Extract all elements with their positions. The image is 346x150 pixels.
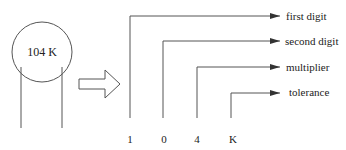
meaning-first-digit: first digit bbox=[286, 10, 327, 22]
capacitor-label: 104 K bbox=[27, 45, 57, 59]
digit-2: 0 bbox=[161, 133, 167, 145]
capacitor-symbol: 104 K bbox=[12, 22, 72, 128]
leader-second-digit bbox=[163, 41, 280, 118]
meaning-multiplier: multiplier bbox=[286, 61, 330, 73]
capacitor-code-diagram: 104 K first digit second digit multiplie… bbox=[0, 0, 346, 150]
hollow-arrow-icon bbox=[79, 70, 120, 98]
meaning-tolerance: tolerance bbox=[289, 86, 329, 98]
digit-1: 1 bbox=[127, 133, 133, 145]
digit-4: K bbox=[229, 133, 237, 145]
meaning-second-digit: second digit bbox=[285, 35, 338, 47]
leader-tolerance bbox=[231, 93, 280, 118]
digit-3: 4 bbox=[194, 133, 200, 145]
